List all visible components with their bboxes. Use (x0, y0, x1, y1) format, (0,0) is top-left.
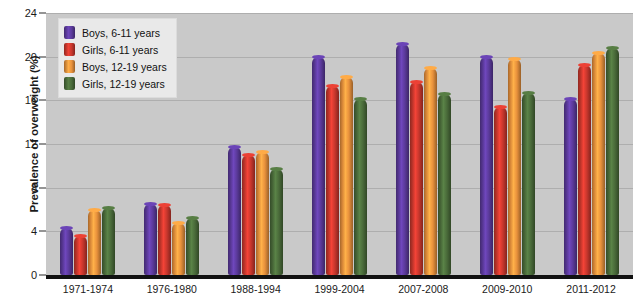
bar-group (549, 13, 633, 275)
bar-cap (88, 208, 101, 212)
bar-cap (242, 153, 255, 157)
bar (326, 86, 339, 275)
bar (144, 204, 157, 275)
legend-label: Girls, 12-19 years (82, 78, 165, 90)
x-tick-label: 2007-2008 (398, 283, 448, 295)
bar (256, 152, 269, 275)
bar-group (214, 13, 298, 275)
bar-group (381, 13, 465, 275)
bar-cap (158, 203, 171, 207)
bar-cap (564, 97, 577, 101)
bar (424, 68, 437, 275)
legend-swatch (64, 26, 75, 39)
bar (312, 57, 325, 275)
bar (158, 205, 171, 275)
bar (186, 218, 199, 275)
bar (354, 99, 367, 275)
bar-cap (592, 51, 605, 55)
bar (102, 208, 115, 275)
y-tick-mark (39, 100, 46, 101)
legend-label: Girls, 6-11 years (82, 44, 158, 56)
bar-cap (410, 80, 423, 84)
y-axis-ticks: 04812162024 (0, 0, 46, 306)
y-tick-label: 16 (25, 94, 37, 106)
bar (74, 236, 87, 275)
y-tick-mark (39, 275, 46, 276)
bar-chart: Prevalence of overweight (%) 04812162024… (0, 0, 643, 306)
y-tick-mark (39, 187, 46, 188)
bar-group (298, 13, 382, 275)
bar-cap (326, 84, 339, 88)
bar (564, 99, 577, 275)
x-tick-label: 1999-2004 (314, 283, 364, 295)
bar (410, 82, 423, 275)
bar-cap (438, 92, 451, 96)
bar (396, 44, 409, 275)
bar (522, 93, 535, 275)
x-tick-label: 1971-1974 (63, 283, 113, 295)
x-tick-label: 2011-2012 (566, 283, 615, 295)
legend-item[interactable]: Boys, 6-11 years (64, 24, 167, 41)
bar-cap (340, 75, 353, 79)
bar (438, 94, 451, 275)
bar (172, 223, 185, 275)
y-tick-mark (39, 56, 46, 57)
bar-cap (102, 206, 115, 210)
legend-item[interactable]: Boys, 12-19 years (64, 58, 167, 75)
y-tick-label: 8 (31, 182, 37, 194)
y-tick-mark (39, 231, 46, 232)
x-axis-labels: 1971-19741976-19801988-19941999-20042007… (46, 283, 633, 303)
legend-label: Boys, 6-11 years (82, 27, 160, 39)
bar (480, 57, 493, 275)
x-tick-label: 2009-2010 (482, 283, 532, 295)
bar-cap (508, 57, 521, 61)
x-tick-label: 1976-1980 (147, 283, 197, 295)
bar-cap (424, 66, 437, 70)
bar-cap (522, 91, 535, 95)
bar-cap (60, 226, 73, 230)
legend-item[interactable]: Girls, 12-19 years (64, 75, 167, 92)
y-tick-label: 12 (25, 138, 37, 150)
bar-cap (228, 145, 241, 149)
bar-group (465, 13, 549, 275)
bar-cap (256, 150, 269, 154)
bar (60, 228, 73, 275)
legend: Boys, 6-11 yearsGirls, 6-11 yearsBoys, 1… (59, 19, 176, 97)
bar (606, 48, 619, 275)
legend-swatch (64, 77, 75, 90)
bar (592, 53, 605, 275)
bar-cap (354, 97, 367, 101)
y-tick-label: 20 (25, 51, 37, 63)
y-tick-mark (39, 13, 46, 14)
bar-cap (480, 55, 493, 59)
bar-cap (312, 55, 325, 59)
bar (494, 107, 507, 275)
bar-cap (144, 202, 157, 206)
legend-swatch (64, 60, 75, 73)
bar-cap (494, 105, 507, 109)
bar (340, 77, 353, 275)
bar (508, 59, 521, 275)
bar-cap (578, 63, 591, 67)
legend-label: Boys, 12-19 years (82, 61, 167, 73)
legend-swatch (64, 43, 75, 56)
bar-cap (396, 42, 409, 46)
bar (242, 155, 255, 275)
x-tick-label: 1988-1994 (231, 283, 281, 295)
bar-cap (186, 216, 199, 220)
bar (88, 210, 101, 276)
bar (228, 147, 241, 275)
x-axis-line (46, 275, 633, 279)
y-tick-label: 0 (31, 269, 37, 281)
bar-cap (74, 234, 87, 238)
legend-item[interactable]: Girls, 6-11 years (64, 41, 167, 58)
y-tick-label: 4 (31, 225, 37, 237)
bar (270, 169, 283, 275)
y-tick-mark (39, 144, 46, 145)
bar-cap (270, 167, 283, 171)
bar-cap (606, 46, 619, 50)
bar-cap (172, 221, 185, 225)
y-tick-label: 24 (25, 7, 37, 19)
bar (578, 65, 591, 275)
